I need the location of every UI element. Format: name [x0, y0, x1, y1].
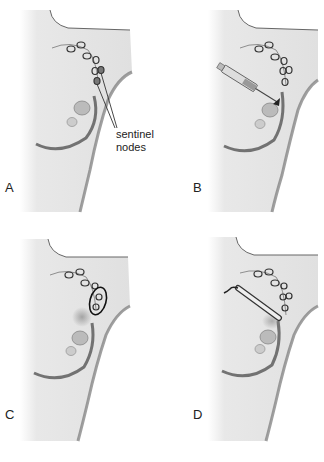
- breast-diagram-c: [0, 231, 162, 462]
- tumor-icon: [262, 103, 278, 117]
- breast-diagram-d: [162, 231, 324, 462]
- tumor-icon: [74, 101, 90, 115]
- callout-line-1: sentinel: [116, 128, 154, 141]
- nipple-icon: [66, 347, 76, 356]
- panel-label: D: [193, 407, 202, 422]
- nipple-icon: [255, 345, 265, 354]
- panel-d: D: [162, 231, 324, 462]
- panel-c: C: [0, 231, 162, 462]
- panel-b: B: [162, 0, 324, 231]
- breast-diagram-b: [162, 0, 324, 231]
- nipple-icon: [255, 120, 265, 129]
- nipple-icon: [67, 118, 77, 127]
- callout-line-2: nodes: [116, 141, 154, 154]
- panel-label: B: [193, 180, 202, 195]
- tumor-icon: [260, 330, 276, 344]
- breast-diagram-a: [0, 0, 162, 231]
- tumor-icon: [72, 331, 88, 345]
- panel-a: sentinel nodes A: [0, 0, 162, 231]
- panel-label: C: [5, 407, 14, 422]
- panel-label: A: [5, 180, 14, 195]
- sentinel-nodes-label: sentinel nodes: [116, 128, 154, 154]
- tracer-uptake: [72, 307, 92, 327]
